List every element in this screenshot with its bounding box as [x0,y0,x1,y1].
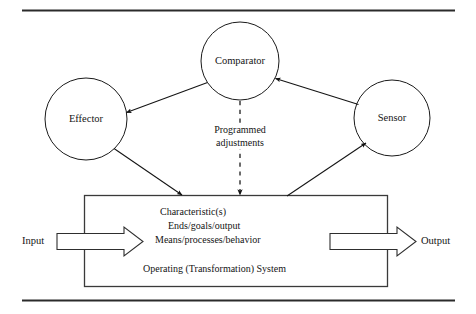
system-characteristics-line-3: Means/processes/behavior [155,233,261,246]
input-block-arrow [57,227,143,256]
input-label: Input [22,235,44,246]
output-label: Output [421,235,450,246]
arrow-effector-to-system [114,149,182,196]
comparator-node[interactable] [201,22,279,100]
system-characteristics-line-1: Characteristic(s) [160,205,226,218]
arrow-comparator-to-effector [127,83,208,113]
programmed-adjustments-line-1: Programmed [185,124,295,137]
arrow-sensor-to-comparator [276,79,359,105]
arrow-system-to-sensor [287,143,366,196]
output-block-arrow [330,227,416,256]
programmed-adjustments-line-2: adjustments [185,137,295,150]
figure-canvas: Comparator Effector Sensor Programmed ad… [0,0,476,314]
system-characteristics-line-2: Ends/goals/output [168,219,240,232]
programmed-adjustments-label: Programmed adjustments [185,124,295,149]
system-footer-label: Operating (Transformation) System [143,262,286,275]
sensor-node[interactable] [354,80,430,156]
effector-node[interactable] [45,78,127,160]
